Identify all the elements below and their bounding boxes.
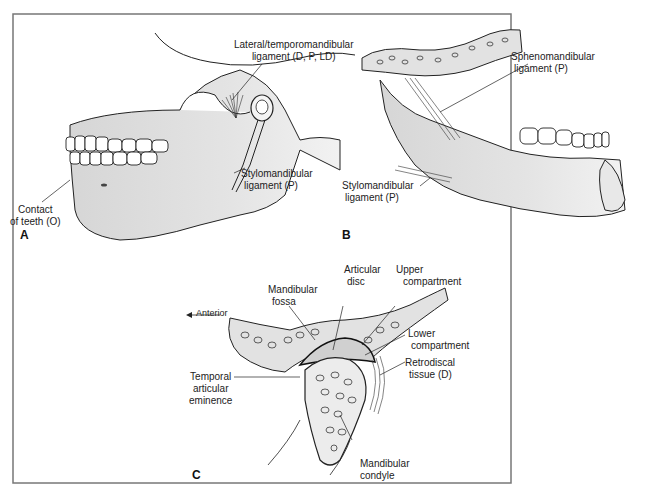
label-line: eminence (189, 395, 232, 407)
label-line: compartment (408, 340, 469, 352)
label-line: Anterior (196, 307, 228, 319)
skull-base-b (362, 30, 522, 76)
label-articular-disc: Articular disc (344, 264, 381, 288)
panel-label-b: B (342, 228, 351, 242)
label-line: Stylomandibular (241, 168, 313, 180)
label-anterior: Anterior (196, 307, 228, 319)
label-line: articular (189, 383, 232, 395)
label-contact-of-teeth: Contact of teeth (O) (10, 204, 61, 228)
label-temporal-articular-eminence: Temporal articular eminence (189, 371, 232, 407)
label-line: Retrodiscal (405, 357, 455, 369)
label-line: ligament (P) (241, 180, 313, 192)
label-line: compartment (396, 276, 461, 288)
panel-a-drawing (42, 33, 355, 240)
label-retrodiscal-tissue: Retrodiscal tissue (D) (405, 357, 455, 381)
panel-label-c: C (192, 468, 201, 482)
label-line: Sphenomandibular (511, 51, 595, 63)
label-stylomandibular-b: Stylomandibular ligament (P) (342, 180, 414, 204)
label-mandibular-fossa: Mandibular fossa (268, 284, 317, 308)
label-line: Articular (344, 264, 381, 276)
label-line: Lower (408, 328, 469, 340)
label-line: ligament (D, P, LD) (234, 51, 354, 63)
label-line: of teeth (O) (10, 216, 61, 228)
label-lower-compartment: Lower compartment (408, 328, 469, 352)
label-line: disc (344, 276, 381, 288)
label-sphenomandibular: Sphenomandibular ligament (P) (511, 51, 595, 75)
panel-label-a: A (20, 228, 29, 242)
label-upper-compartment: Upper compartment (396, 264, 461, 288)
label-mandibular-condyle: Mandibular condyle (360, 458, 409, 482)
label-line: Mandibular (360, 458, 409, 470)
label-stylomandibular-a: Stylomandibular ligament (P) (241, 168, 313, 192)
label-line: Temporal (189, 371, 232, 383)
label-line: tissue (D) (405, 369, 455, 381)
label-line: Lateral/temporomandibular (234, 39, 354, 51)
label-line: ligament (P) (511, 63, 595, 75)
label-line: Contact (10, 204, 61, 216)
label-line: ligament (P) (342, 192, 414, 204)
label-line: Stylomandibular (342, 180, 414, 192)
label-line: Upper (396, 264, 461, 276)
label-line: condyle (360, 470, 409, 482)
label-line: fossa (268, 296, 317, 308)
label-line: Mandibular (268, 284, 317, 296)
label-lateral-ligament: Lateral/temporomandibular ligament (D, P… (234, 39, 354, 63)
